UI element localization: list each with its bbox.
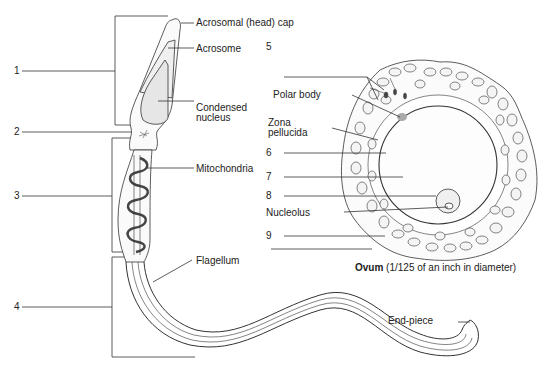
label-polar-body: Polar body [273,89,321,100]
label-acrosomal-cap: Acrosomal (head) cap [196,17,294,28]
label-flagellum: Flagellum [196,255,239,266]
label-zona-2: pellucida [268,127,307,138]
ovum-caption: Ovum (1/125 of an inch in diameter) [355,262,516,273]
nucleolus [445,203,453,209]
label-condensed-nucleus-2: nucleus [196,112,230,123]
label-acrosome: Acrosome [196,43,241,54]
label-mitochondria: Mitochondria [196,163,253,174]
blank-7: 7 [266,171,272,182]
caption-rest: (1/125 of an inch in diameter) [383,262,516,273]
blank-2: 2 [14,126,20,137]
blank-1: 1 [14,65,20,76]
caption-bold: Ovum [355,262,383,273]
blank-6: 6 [266,147,272,158]
bracket-tail [112,257,195,357]
blank-3: 3 [14,190,20,201]
diagram-canvas [0,0,553,378]
blank-5: 5 [266,41,272,52]
blank-9: 9 [266,230,272,241]
ovum-nucleus [436,189,460,213]
label-nucleolus: Nucleolus [266,207,310,218]
blank-4: 4 [14,301,20,312]
label-end-piece: End-piece [388,315,433,326]
blank-8: 8 [266,190,272,201]
polar-body [397,113,407,121]
